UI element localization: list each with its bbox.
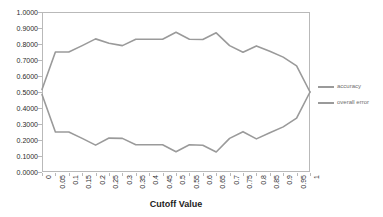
x-axis-tick [270, 173, 271, 176]
x-axis-tick [297, 173, 298, 176]
y-axis-tick-label: 0.2000 [0, 137, 38, 144]
y-axis-tick-label: 0.7000 [0, 57, 38, 64]
x-axis-tick-label: 0.1 [72, 175, 79, 185]
x-axis-tick-label: 0.2 [99, 175, 106, 185]
x-axis-tick-label: 0.8 [260, 175, 267, 185]
legend-item[interactable]: overall error [318, 96, 383, 109]
x-axis-tick [82, 173, 83, 176]
x-axis-tick-label: 0.65 [219, 175, 226, 189]
x-axis-tick-label: 0.3 [126, 175, 133, 185]
x-axis-tick-label: 0.25 [112, 175, 119, 189]
series-line-overall-error [42, 92, 310, 152]
x-axis-title: Cutoff Value [42, 199, 310, 209]
y-axis-tick-label: 0.4000 [0, 105, 38, 112]
y-axis-tick-label: 1.0000 [0, 9, 38, 16]
line-chart: 0.00000.10000.20000.30000.40000.50000.60… [0, 0, 383, 217]
x-axis-tick-label: 0.4 [152, 175, 159, 185]
x-axis-tick [163, 173, 164, 176]
x-axis-tick-label: 0.75 [246, 175, 253, 189]
y-axis-tick-label: 0.0000 [0, 169, 38, 176]
x-axis-tick [136, 173, 137, 176]
x-axis-tick [310, 173, 311, 176]
x-axis: 00.050.10.150.20.250.30.350.40.450.50.55… [42, 173, 310, 201]
x-axis-tick [55, 173, 56, 176]
legend-swatch-icon [318, 102, 334, 104]
x-axis-tick-label: 0.15 [85, 175, 92, 189]
x-axis-tick [283, 173, 284, 176]
y-axis-tick-label: 0.5000 [0, 89, 38, 96]
x-axis-tick [149, 173, 150, 176]
series-line-accuracy [42, 32, 310, 92]
series-layer [42, 12, 310, 172]
x-axis-tick-label: 0.85 [273, 175, 280, 189]
legend-item[interactable]: accuracy [318, 80, 383, 93]
x-axis-tick [69, 173, 70, 176]
x-axis-tick [216, 173, 217, 176]
x-axis-tick-label: 0.05 [59, 175, 66, 189]
legend-item-label: accuracy [337, 83, 361, 90]
chart-legend: accuracyoverall error [318, 80, 383, 112]
x-axis-tick [203, 173, 204, 176]
x-axis-tick [230, 173, 231, 176]
x-axis-tick [256, 173, 257, 176]
x-axis-tick [96, 173, 97, 176]
x-axis-tick [122, 173, 123, 176]
y-axis: 0.00000.10000.20000.30000.40000.50000.60… [0, 12, 38, 172]
x-axis-tick-label: 1 [313, 175, 320, 179]
y-axis-tick-label: 0.6000 [0, 73, 38, 80]
x-axis-tick-label: 0 [45, 175, 52, 179]
y-axis-tick-label: 0.3000 [0, 121, 38, 128]
y-axis-tick-label: 0.9000 [0, 25, 38, 32]
legend-item-label: overall error [337, 99, 369, 106]
x-axis-tick-label: 0.95 [300, 175, 307, 189]
x-axis-tick [189, 173, 190, 176]
y-axis-tick-label: 0.1000 [0, 153, 38, 160]
x-axis-tick [176, 173, 177, 176]
x-axis-tick-label: 0.9 [286, 175, 293, 185]
x-axis-tick-label: 0.45 [166, 175, 173, 189]
y-axis-tick-label: 0.8000 [0, 41, 38, 48]
x-axis-tick-label: 0.5 [179, 175, 186, 185]
x-axis-tick-label: 0.35 [139, 175, 146, 189]
legend-swatch-icon [318, 86, 334, 88]
x-axis-tick-label: 0.6 [206, 175, 213, 185]
x-axis-tick [109, 173, 110, 176]
x-axis-tick [243, 173, 244, 176]
x-axis-tick-label: 0.55 [193, 175, 200, 189]
x-axis-tick [42, 173, 43, 176]
x-axis-tick-label: 0.7 [233, 175, 240, 185]
